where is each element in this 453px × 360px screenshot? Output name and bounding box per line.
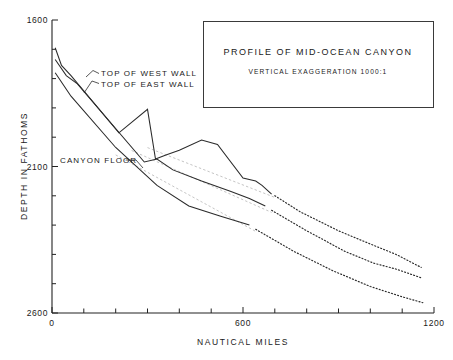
y-tick-label-1600: 1600 bbox=[27, 15, 48, 25]
x-tick-label-600: 600 bbox=[235, 318, 251, 328]
figure-root: 1600 2100 2600 0 600 1200 NAUTICAL MILES… bbox=[0, 0, 453, 360]
annotation-top-of-east-wall: TOP OF EAST WALL bbox=[101, 80, 195, 89]
y-axis-ticks bbox=[52, 20, 58, 313]
title-box-frame bbox=[204, 22, 434, 108]
mid-ocean-canyon-profile-chart: 1600 2100 2600 0 600 1200 NAUTICAL MILES… bbox=[0, 0, 453, 360]
figure-subtitle: VERTICAL EXAGGERATION 1000:1 bbox=[249, 68, 388, 75]
x-axis-ticks bbox=[52, 307, 434, 313]
figure-title: PROFILE OF MID-OCEAN CANYON bbox=[223, 47, 412, 57]
annotation-top-of-west-wall: TOP OF WEST WALL bbox=[101, 69, 197, 78]
series-east-wall-dotted bbox=[272, 210, 422, 277]
guide-trend-lines bbox=[116, 148, 275, 232]
x-tick-label-1200: 1200 bbox=[423, 318, 444, 328]
series-west-wall-dotted bbox=[275, 196, 421, 268]
series-canyon-floor-dotted bbox=[256, 229, 423, 302]
y-tick-label-2600: 2600 bbox=[27, 308, 48, 318]
leader-west-wall bbox=[86, 71, 99, 78]
x-tick-label-0: 0 bbox=[49, 318, 54, 328]
y-tick-label-2100: 2100 bbox=[27, 162, 48, 172]
x-axis-title: NAUTICAL MILES bbox=[197, 337, 289, 347]
title-box: PROFILE OF MID-OCEAN CANYON VERTICAL EXA… bbox=[204, 22, 434, 108]
leader-east-wall bbox=[84, 81, 99, 93]
y-axis-title: DEPTH IN FATHOMS bbox=[19, 112, 29, 220]
annotation-canyon-floor: CANYON FLOOR bbox=[60, 156, 137, 165]
